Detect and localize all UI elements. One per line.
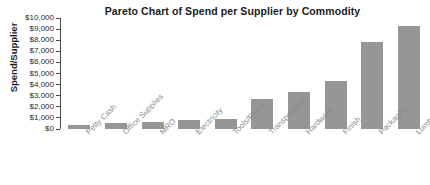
bar bbox=[361, 42, 383, 129]
x-axis-tick-label: Lumber bbox=[414, 130, 420, 136]
y-axis-tick-label: $1,000 bbox=[30, 114, 56, 122]
plot-area bbox=[61, 18, 427, 129]
x-axis-tick-label: Packaging bbox=[377, 130, 383, 136]
x-axis-tick-label: Transportation bbox=[267, 130, 273, 136]
x-axis-tick-label: Hardware bbox=[304, 130, 310, 136]
x-axis-tick-label: Petty Cash bbox=[84, 130, 90, 136]
y-axis-tick-label: $10,000 bbox=[25, 14, 56, 22]
x-axis-tick-label: Tools/Equip bbox=[231, 130, 237, 136]
y-axis-tick-label: $3,000 bbox=[30, 92, 56, 100]
y-axis-tick-label: $9,000 bbox=[30, 25, 56, 33]
chart-title: Pareto Chart of Spend per Supplier by Co… bbox=[40, 5, 425, 17]
x-axis-tick-label: Finish bbox=[341, 130, 347, 136]
x-axis-tick-label: MRO bbox=[158, 130, 164, 136]
pareto-chart: Pareto Chart of Spend per Supplier by Co… bbox=[0, 0, 430, 185]
y-axis-tick-label: $8,000 bbox=[30, 36, 56, 44]
y-axis-ticks: $0$1,000$2,000$3,000$4,000$5,000$6,000$7… bbox=[16, 18, 60, 128]
x-axis-labels: Petty CashOffice SuppliesMROElectricityT… bbox=[61, 130, 427, 185]
y-axis-tick-label: $5,000 bbox=[30, 70, 56, 78]
y-axis-tick-label: $4,000 bbox=[30, 81, 56, 89]
x-axis-tick-label: Electricity bbox=[194, 130, 200, 136]
y-axis-tick-label: $6,000 bbox=[30, 58, 56, 66]
y-axis-tick-label: $0 bbox=[45, 125, 56, 133]
y-axis-tick-label: $2,000 bbox=[30, 103, 56, 111]
x-axis-tick-label: Office Supplies bbox=[121, 130, 127, 136]
y-axis-tick-label: $7,000 bbox=[30, 47, 56, 55]
